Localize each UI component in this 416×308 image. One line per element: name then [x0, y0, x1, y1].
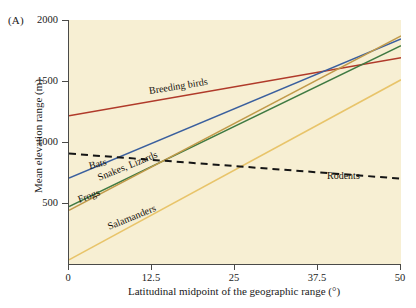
series-label-rodents: Rodents [327, 170, 360, 181]
series-line [69, 46, 401, 207]
x-axis-tick-label: 37.5 [294, 272, 340, 283]
x-axis-title: Latitudinal midpoint of the geographic r… [68, 285, 400, 297]
x-axis-tick-label: 50 [377, 272, 416, 283]
panel-letter-label: (A) [8, 14, 24, 26]
y-axis-tick-label: 2000 [24, 14, 58, 25]
y-axis-tick-label: 1500 [24, 75, 58, 86]
y-axis-tick-label: 500 [24, 197, 58, 208]
x-axis-tick-label: 25 [211, 272, 257, 283]
y-axis-tick-label: 1000 [24, 136, 58, 147]
x-axis-tick-label: 12.5 [128, 272, 174, 283]
x-axis-tick-label: 0 [45, 272, 91, 283]
figure-panel-a: (A) Mean elevation range (m) Latitudinal… [0, 0, 416, 308]
series-line [69, 36, 401, 210]
